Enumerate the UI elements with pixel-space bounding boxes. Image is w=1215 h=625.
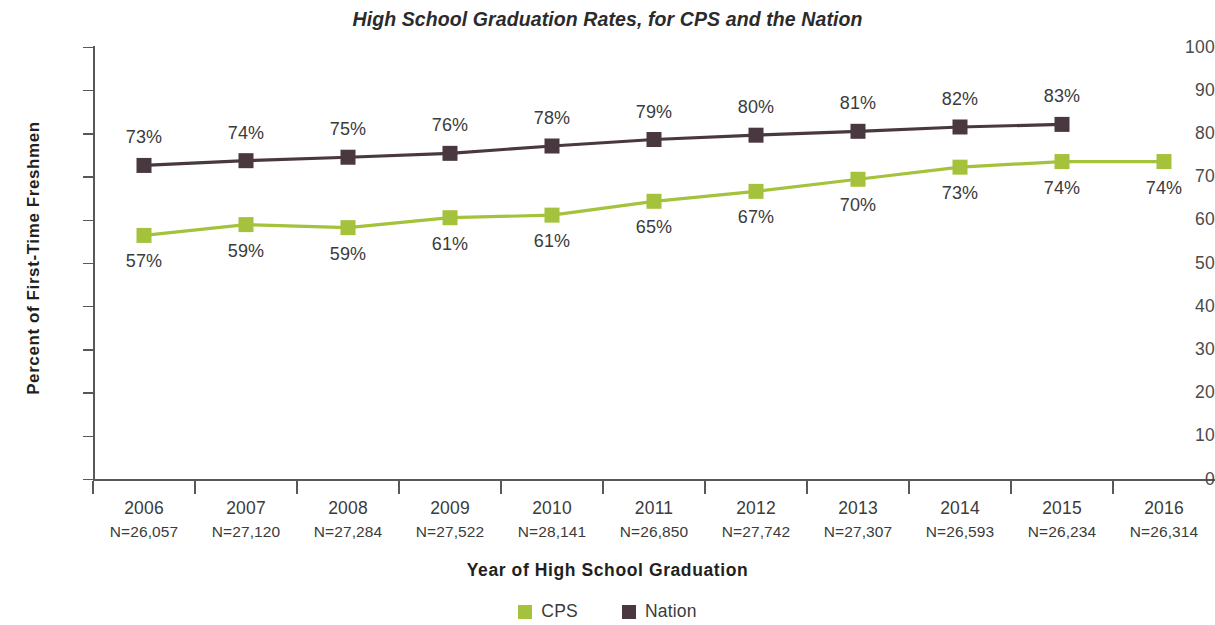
data-label-cps: 59%	[210, 241, 282, 262]
data-point-marker-nation	[647, 132, 662, 147]
x-axis-category: 2016N=26,314	[1113, 497, 1215, 543]
data-point-marker-cps	[341, 220, 356, 235]
x-axis-tick	[194, 481, 196, 494]
x-axis-n-label: N=27,307	[807, 522, 909, 542]
x-axis-year-label: 2009	[399, 497, 501, 520]
data-label-nation: 80%	[720, 97, 792, 118]
x-axis-year-label: 2006	[93, 497, 195, 520]
data-point-marker-cps	[953, 160, 968, 175]
y-axis-tick	[83, 176, 95, 178]
data-point-marker-cps	[749, 184, 764, 199]
data-label-cps: 61%	[516, 231, 588, 252]
x-axis-n-label: N=27,742	[705, 522, 807, 542]
y-axis-tick-label: 100	[1141, 37, 1215, 58]
chart-container: High School Graduation Rates, for CPS an…	[0, 0, 1215, 625]
data-point-marker-nation	[239, 153, 254, 168]
data-point-marker-nation	[851, 124, 866, 139]
x-axis-n-label: N=26,314	[1113, 522, 1215, 542]
x-axis-n-label: N=26,057	[93, 522, 195, 542]
chart-title: High School Graduation Rates, for CPS an…	[0, 8, 1215, 31]
x-axis-category: 2011N=26,850	[603, 497, 705, 543]
y-axis-tick	[83, 90, 95, 92]
y-axis-tick-label: 40	[1141, 296, 1215, 317]
x-axis-category: 2013N=27,307	[807, 497, 909, 543]
legend-swatch-icon	[518, 605, 532, 619]
x-axis-year-label: 2013	[807, 497, 909, 520]
x-axis-title: Year of High School Graduation	[0, 560, 1215, 581]
x-axis-tick	[1010, 481, 1012, 494]
y-axis-tick-label: 20	[1141, 382, 1215, 403]
y-axis-tick	[83, 349, 95, 351]
data-label-cps: 70%	[822, 195, 894, 216]
x-axis-tick	[704, 481, 706, 494]
y-axis-tick	[83, 263, 95, 265]
data-point-marker-nation	[953, 119, 968, 134]
x-axis-category: 2014N=26,593	[909, 497, 1011, 543]
data-point-marker-cps	[647, 194, 662, 209]
x-axis-tick	[92, 481, 94, 494]
data-point-marker-cps	[443, 210, 458, 225]
data-point-marker-nation	[443, 146, 458, 161]
data-point-marker-nation	[749, 128, 764, 143]
data-label-nation: 81%	[822, 93, 894, 114]
legend-label: Nation	[645, 601, 697, 622]
x-axis-tick	[1112, 481, 1114, 494]
data-label-cps: 73%	[924, 183, 996, 204]
x-axis-n-label: N=28,141	[501, 522, 603, 542]
x-axis-category: 2007N=27,120	[195, 497, 297, 543]
data-label-nation: 73%	[108, 127, 180, 148]
data-point-marker-nation	[545, 138, 560, 153]
data-point-marker-cps	[239, 217, 254, 232]
x-axis-category: 2010N=28,141	[501, 497, 603, 543]
x-axis-n-label: N=26,593	[909, 522, 1011, 542]
data-label-cps: 59%	[312, 244, 384, 265]
data-point-marker-cps	[545, 208, 560, 223]
x-axis-tick	[296, 481, 298, 494]
data-label-nation: 82%	[924, 89, 996, 110]
x-axis-tick	[500, 481, 502, 494]
data-point-marker-cps	[1055, 154, 1070, 169]
x-axis-year-label: 2015	[1011, 497, 1113, 520]
data-label-nation: 76%	[414, 115, 486, 136]
x-axis-n-label: N=26,234	[1011, 522, 1113, 542]
x-axis-tick	[398, 481, 400, 494]
y-axis-tick-label: 60	[1141, 209, 1215, 230]
data-label-cps: 74%	[1128, 178, 1200, 199]
x-axis-category: 2006N=26,057	[93, 497, 195, 543]
data-label-nation: 79%	[618, 102, 690, 123]
data-label-cps: 57%	[108, 251, 180, 272]
x-axis-year-label: 2007	[195, 497, 297, 520]
chart-legend: CPSNation	[0, 601, 1215, 622]
data-label-cps: 61%	[414, 234, 486, 255]
x-axis-year-label: 2014	[909, 497, 1011, 520]
data-point-marker-nation	[137, 158, 152, 173]
legend-swatch-icon	[622, 605, 636, 619]
y-axis-tick-label: 90	[1141, 80, 1215, 101]
y-axis-tick	[83, 306, 95, 308]
x-axis-category: 2012N=27,742	[705, 497, 807, 543]
x-axis-year-label: 2010	[501, 497, 603, 520]
data-label-nation: 75%	[312, 119, 384, 140]
data-point-marker-nation	[1055, 117, 1070, 132]
legend-item-cps[interactable]: CPS	[518, 601, 578, 622]
x-axis-tick	[602, 481, 604, 494]
x-axis-category: 2015N=26,234	[1011, 497, 1113, 543]
y-axis-title: Percent of First-Time Freshmen	[24, 48, 44, 468]
y-axis-tick	[83, 47, 95, 49]
y-axis-tick	[83, 392, 95, 394]
x-axis-year-label: 2011	[603, 497, 705, 520]
y-axis-tick-label: 0	[1141, 469, 1215, 490]
x-axis-n-label: N=26,850	[603, 522, 705, 542]
y-axis-tick-label: 10	[1141, 425, 1215, 446]
legend-item-nation[interactable]: Nation	[622, 601, 697, 622]
y-axis-tick	[83, 436, 95, 438]
data-point-marker-cps	[137, 228, 152, 243]
legend-label: CPS	[541, 601, 578, 622]
y-axis-tick-label: 30	[1141, 339, 1215, 360]
x-axis-year-label: 2012	[705, 497, 807, 520]
x-axis-n-label: N=27,522	[399, 522, 501, 542]
x-axis-n-label: N=27,284	[297, 522, 399, 542]
data-label-cps: 67%	[720, 207, 792, 228]
y-axis-tick	[83, 133, 95, 135]
y-axis-tick-label: 50	[1141, 253, 1215, 274]
